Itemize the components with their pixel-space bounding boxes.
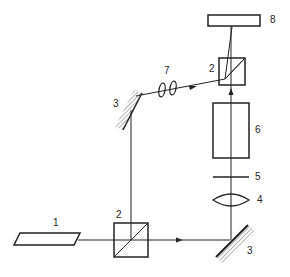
label-1: 1 [53, 218, 59, 228]
label-6: 6 [255, 125, 261, 135]
label-5: 5 [255, 172, 261, 182]
label-3-top: 3 [113, 99, 119, 109]
label-3-bottom: 3 [247, 246, 253, 256]
beamsplitter-top [219, 58, 245, 85]
mirror-top-left [115, 90, 142, 130]
label-2-top: 2 [209, 64, 215, 74]
beam-paths [78, 20, 245, 240]
optical-diagram [0, 0, 290, 277]
beam-arrows [176, 86, 234, 243]
label-7: 7 [164, 66, 170, 76]
label-2-bottom: 2 [116, 210, 122, 220]
detector [208, 15, 260, 26]
label-4: 4 [257, 195, 263, 205]
laser-source [14, 233, 80, 245]
label-8: 8 [270, 15, 276, 25]
